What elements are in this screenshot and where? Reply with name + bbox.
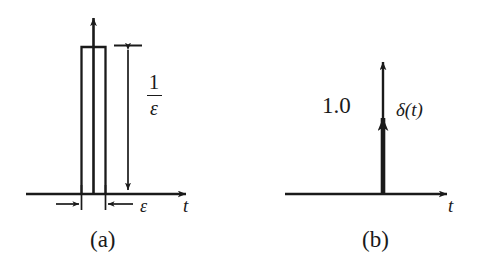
panel-a-caption: (a): [90, 228, 116, 251]
panel-b-function-label: δ(t): [396, 100, 423, 119]
panel-a-height-label: 1 ε: [139, 72, 169, 118]
fraction-bar-icon: [147, 95, 162, 96]
panel-b-x-axis-label: t: [448, 196, 453, 215]
panel-a-rectangular-pulse: 1 ε ε t (a): [0, 0, 250, 270]
panel-b-amplitude-label: 1.0: [322, 94, 351, 117]
panel-b-dirac-delta: 1.0 δ(t) t (b): [245, 0, 495, 270]
figure-root: 1 ε ε t (a): [0, 0, 495, 270]
panel-a-x-axis-label: t: [183, 196, 188, 215]
panel-a-drawing: [0, 0, 250, 270]
panel-a-width-label: ε: [140, 197, 147, 215]
panel-a-height-numerator: 1: [139, 72, 169, 94]
panel-a-height-denominator: ε: [139, 98, 169, 118]
panel-b-caption: (b): [362, 228, 389, 251]
